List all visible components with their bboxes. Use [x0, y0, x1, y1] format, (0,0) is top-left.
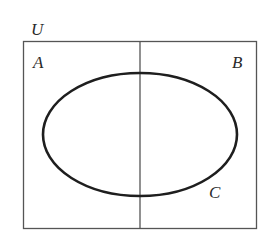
venn-diagram: U A B C [0, 0, 266, 249]
set-c-label: C [209, 183, 221, 202]
set-b-label: B [232, 53, 243, 72]
universe-label: U [31, 20, 45, 39]
set-a-label: A [32, 53, 44, 72]
